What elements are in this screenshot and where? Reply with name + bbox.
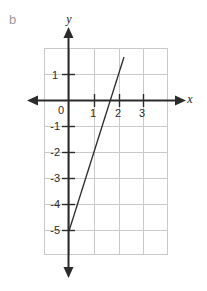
y-axis-arrow-down-icon bbox=[64, 267, 74, 278]
x-axis-label: x bbox=[186, 92, 193, 106]
y-axis-label: y bbox=[65, 12, 72, 26]
graph-figure: b bbox=[0, 0, 207, 291]
y-tick-label: -3 bbox=[50, 172, 60, 184]
x-tick-label: 1 bbox=[90, 107, 96, 119]
y-tick-label: -5 bbox=[50, 224, 60, 236]
origin-tick-label: 0 bbox=[58, 104, 64, 116]
y-tick-label: 1 bbox=[52, 69, 58, 81]
x-tick-label: 3 bbox=[139, 107, 145, 119]
x-axis-arrow-right-icon bbox=[175, 96, 186, 106]
y-tick-label: -4 bbox=[50, 198, 60, 210]
grid-lines bbox=[44, 48, 168, 255]
y-axis-arrow-up-icon bbox=[64, 27, 74, 38]
y-tick-label: -2 bbox=[50, 146, 60, 158]
x-tick-label: 2 bbox=[115, 107, 121, 119]
y-tick-label: -1 bbox=[50, 120, 60, 132]
x-axis bbox=[27, 96, 186, 106]
coordinate-plane: x y 0 1 2 3 1 -1 -2 -3 -4 -5 bbox=[0, 0, 207, 291]
x-axis-arrow-left-icon bbox=[27, 96, 38, 106]
